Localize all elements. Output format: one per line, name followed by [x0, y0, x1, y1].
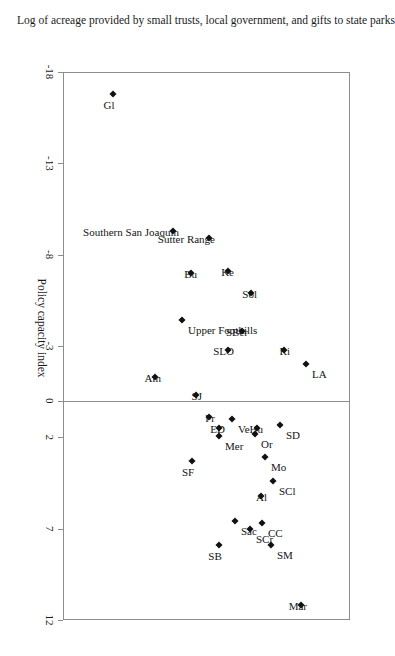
- scatter-point-label: SCl: [279, 485, 296, 497]
- x-tick-label: 7: [44, 526, 56, 532]
- x-tick-label: 2: [44, 435, 56, 441]
- scatter-point-label: Sac: [241, 525, 257, 537]
- scatter-point-label: Fr: [206, 412, 216, 424]
- scatter-point-label: Am: [144, 372, 161, 384]
- scatter-point-label: SCr: [256, 533, 273, 545]
- scatter-point-label: LA: [312, 368, 327, 380]
- scatter-point-label: Al: [256, 491, 267, 503]
- scatter-point-label: Mar: [289, 600, 307, 612]
- x-tick-label: 0: [44, 398, 56, 404]
- x-tick-mark: [58, 437, 63, 438]
- x-tick-mark: [58, 620, 63, 621]
- scatter-point-label: Mer: [225, 440, 243, 452]
- scatter-point-label: Ri: [280, 345, 290, 357]
- scatter-point-label: Mo: [271, 461, 286, 473]
- scatter-point-label: Upper Foothills: [188, 324, 257, 336]
- plot-frame: [63, 72, 350, 620]
- scatter-point-label: Or: [261, 438, 273, 450]
- scatter-point-label: Southern San Joaquin: [84, 226, 180, 238]
- x-tick-label: 12: [44, 615, 56, 626]
- zero-reference-line: [63, 401, 350, 402]
- scatter-point-label: Ke: [221, 266, 234, 278]
- scatter-point-label: SF: [182, 466, 194, 478]
- scatter-point-label: SLO: [213, 345, 234, 357]
- x-tick-mark: [58, 529, 63, 530]
- x-tick-label: -8: [44, 250, 56, 259]
- scatter-point-label: SJ: [192, 390, 202, 402]
- y-axis-title: Log of acreage provided by small trusts,…: [18, 14, 395, 26]
- x-tick-label: -18: [44, 65, 56, 80]
- scatter-point-label: SD: [286, 429, 300, 441]
- x-tick-mark: [58, 163, 63, 164]
- scatter-point-label: Ve: [238, 423, 250, 435]
- scatter-point-label: Bu: [184, 268, 197, 280]
- scatter-point-label: Gl: [104, 99, 115, 111]
- x-tick-mark: [58, 401, 63, 402]
- x-tick-mark: [58, 255, 63, 256]
- x-tick-mark: [58, 346, 63, 347]
- x-tick-label: -13: [44, 156, 56, 171]
- scatter-point-label: SB: [209, 550, 222, 562]
- scatter-point-label: ED: [211, 423, 226, 435]
- scatter-point-label: Sol: [242, 288, 257, 300]
- x-axis-title: Policy capacity index: [36, 279, 48, 378]
- x-tick-mark: [58, 72, 63, 73]
- scatter-point-label: SM: [277, 549, 293, 561]
- rotated-figure: -18-13-8-302712 MarSMSBCCSCrSacAlSClMoSF…: [26, 12, 366, 644]
